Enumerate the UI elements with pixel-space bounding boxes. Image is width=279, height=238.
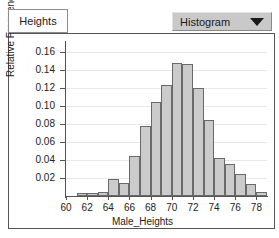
x-tick <box>129 196 130 200</box>
histogram-bar <box>140 126 151 196</box>
histogram-bar <box>129 156 140 197</box>
x-tick <box>214 196 215 200</box>
x-tick <box>108 196 109 200</box>
x-axis-line <box>65 196 268 197</box>
histogram-bar <box>182 64 193 196</box>
histogram-bar <box>108 179 119 196</box>
y-tick-label: 0.08 <box>9 118 55 129</box>
y-tick-label: 0.10 <box>9 100 55 111</box>
x-tick-label: 78 <box>244 202 268 213</box>
plot-panel: Relative Frequency 0.020.040.060.080.100… <box>8 33 275 229</box>
y-tick-label: 0.02 <box>9 172 55 183</box>
tab-heights-label: Heights <box>19 15 56 27</box>
plot-type-value: Histogram <box>173 16 247 28</box>
chevron-down-icon[interactable] <box>247 18 271 26</box>
histogram-bar <box>151 102 162 197</box>
y-tick-label: 0.14 <box>9 64 55 75</box>
histogram-bar <box>98 192 109 196</box>
x-tick <box>87 196 88 200</box>
histogram-bar <box>87 193 98 196</box>
histogram-bar <box>214 158 225 196</box>
x-tick <box>193 196 194 200</box>
histogram-bar <box>172 63 183 196</box>
histogram-bar <box>119 183 130 197</box>
histogram-bar <box>246 184 257 196</box>
histogram-bar <box>235 174 246 197</box>
histogram-app: Heights Histogram Relative Frequency 0.0… <box>0 0 279 238</box>
histogram-bars <box>66 43 267 196</box>
y-tick-label: 0.06 <box>9 136 55 147</box>
x-tick <box>256 196 257 200</box>
x-axis-title: Male_Heights <box>9 216 276 227</box>
y-tick-label: 0.04 <box>9 154 55 165</box>
histogram-bar <box>204 120 215 197</box>
y-tick-label: 0.12 <box>9 82 55 93</box>
x-tick <box>66 196 67 200</box>
histogram-bar <box>77 193 88 196</box>
histogram-bar <box>193 88 204 196</box>
histogram-bar <box>161 85 172 196</box>
x-tick <box>172 196 173 200</box>
x-tick <box>235 196 236 200</box>
plot-type-dropdown[interactable]: Histogram <box>172 12 272 31</box>
histogram-bar <box>256 192 267 197</box>
tab-heights[interactable]: Heights <box>8 9 68 33</box>
histogram-bar <box>225 164 236 196</box>
x-tick <box>151 196 152 200</box>
y-tick-label: 0.16 <box>9 46 55 57</box>
